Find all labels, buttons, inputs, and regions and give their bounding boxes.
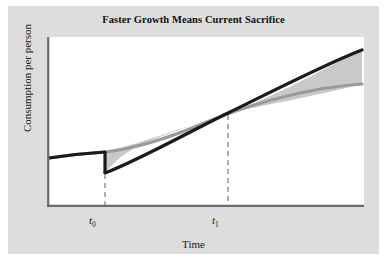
- x-tick-label-t1: t1: [212, 214, 219, 229]
- curve-series-b-pre-t0: [49, 152, 105, 158]
- figure-root: Faster Growth Means Current Sacrifice Co…: [0, 0, 391, 262]
- figure-panel: Faster Growth Means Current Sacrifice Co…: [8, 6, 379, 254]
- tick-t1-subscript: 1: [215, 220, 219, 229]
- curve-series-b-post-t0: [105, 50, 362, 173]
- chart-svg: [47, 37, 364, 207]
- y-axis-label: Consumption per person: [21, 0, 33, 163]
- x-axis-label: Time: [8, 238, 379, 250]
- tick-t0-subscript: 0: [92, 220, 96, 229]
- plot-area: [47, 37, 364, 207]
- page-title: Faster Growth Means Current Sacrifice: [8, 14, 379, 25]
- curve-series-a: [49, 84, 362, 158]
- x-tick-label-t0: t0: [89, 214, 96, 229]
